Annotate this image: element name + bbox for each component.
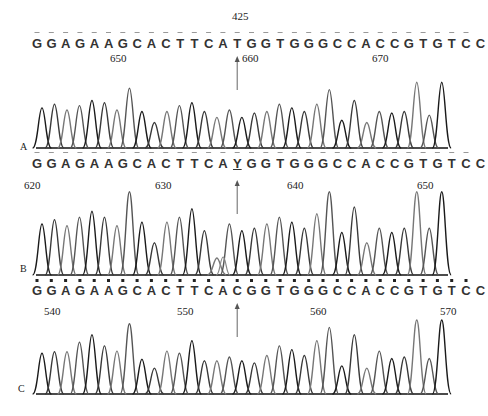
chromatogram-traces [0,0,476,416]
